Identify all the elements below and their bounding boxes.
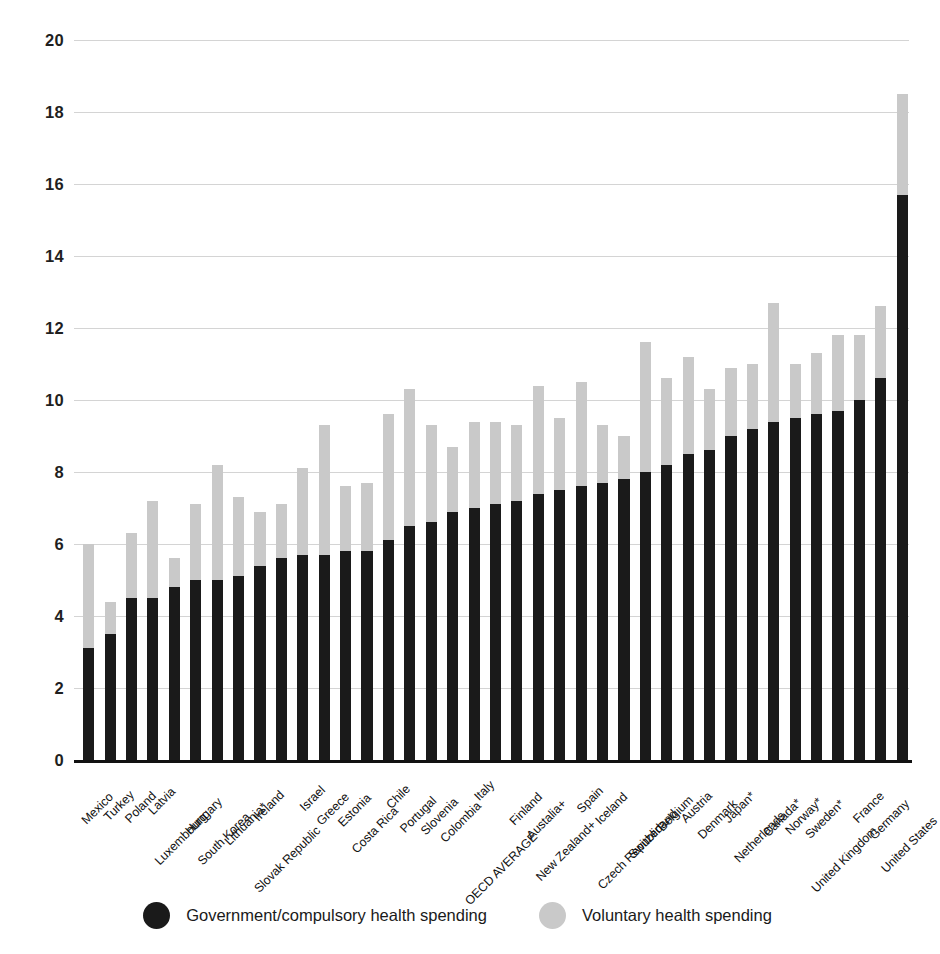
- bar-segment-voluntary: [747, 364, 758, 429]
- y-tick-label-8: 8: [55, 463, 64, 482]
- bar-new-zealand: [554, 418, 565, 760]
- legend-label-voluntary: Voluntary health spending: [582, 906, 772, 925]
- bar-czech-republic: [618, 436, 629, 760]
- bar-segment-voluntary: [469, 422, 480, 508]
- bar-segment-government: [576, 486, 587, 760]
- bar-hungary: [190, 504, 201, 760]
- y-tick-label-14: 14: [45, 247, 64, 266]
- bar-italy: [469, 422, 480, 760]
- y-tick-label-18: 18: [45, 103, 64, 122]
- bar-segment-government: [469, 508, 480, 760]
- bar-segment-government: [212, 580, 223, 760]
- bar-south-korea: [212, 465, 223, 760]
- y-tick-label-6: 6: [55, 535, 64, 554]
- bar-segment-government: [725, 436, 736, 760]
- bar-segment-voluntary: [597, 425, 608, 483]
- bar-segment-voluntary: [618, 436, 629, 479]
- bar-segment-government: [597, 483, 608, 760]
- bar-segment-voluntary: [854, 335, 865, 400]
- bar-segment-voluntary: [875, 306, 886, 378]
- bar-austalia: [533, 386, 544, 760]
- bar-segment-government: [768, 422, 779, 760]
- bar-segment-government: [254, 566, 265, 760]
- bar-belgium: [661, 378, 672, 760]
- bar-turkey: [105, 602, 116, 760]
- bar-israel: [297, 468, 308, 760]
- bar-segment-government: [105, 634, 116, 760]
- bar-segment-government: [897, 195, 908, 760]
- bar-segment-voluntary: [768, 303, 779, 422]
- bar-segment-government: [83, 648, 94, 760]
- x-axis-tick-labels: MexicoTurkeyPolandLatviaLuxembourgHungar…: [74, 763, 912, 873]
- bar-united-kingdom: [832, 335, 843, 760]
- bar-france: [854, 335, 865, 760]
- bar-segment-government: [661, 465, 672, 760]
- bar-segment-government: [854, 400, 865, 760]
- bar-segment-voluntary: [276, 504, 287, 558]
- bar-lithuania: [233, 497, 244, 760]
- bar-segment-government: [790, 418, 801, 760]
- y-tick-label-2: 2: [55, 679, 64, 698]
- bar-switzerland: [640, 342, 651, 760]
- bar-segment-voluntary: [169, 558, 180, 587]
- bar-segment-voluntary: [661, 378, 672, 464]
- bar-oecd-average: [490, 422, 501, 760]
- bar-slovak-republic: [276, 504, 287, 760]
- bar-segment-government: [319, 555, 330, 760]
- bar-segment-government: [340, 551, 351, 760]
- bar-segment-voluntary: [683, 357, 694, 454]
- bar-segment-government: [126, 598, 137, 760]
- bar-luxembourg: [169, 558, 180, 760]
- bar-segment-voluntary: [126, 533, 137, 598]
- x-tick-label-slovak-republic: Slovak Republic: [251, 824, 322, 895]
- bar-segment-government: [361, 551, 372, 760]
- bar-united-states: [897, 94, 908, 760]
- bar-japan: [725, 368, 736, 760]
- bar-segment-government: [511, 501, 522, 760]
- legend-item-government[interactable]: Government/compulsory health spending: [143, 902, 487, 929]
- bar-poland: [126, 533, 137, 760]
- bar-segment-government: [383, 540, 394, 760]
- bar-segment-voluntary: [511, 425, 522, 501]
- bar-segment-voluntary: [383, 414, 394, 540]
- bar-segment-voluntary: [576, 382, 587, 486]
- legend-item-voluntary[interactable]: Voluntary health spending: [539, 902, 772, 929]
- bar-segment-government: [404, 526, 415, 760]
- y-tick-label-0: 0: [55, 751, 64, 770]
- bar-segment-government: [169, 587, 180, 760]
- bar-mexico: [83, 544, 94, 760]
- bar-finland: [511, 425, 522, 760]
- bar-segment-voluntary: [725, 368, 736, 436]
- bar-slovenia: [426, 425, 437, 760]
- x-tick-label-hungary: Hungary: [183, 795, 225, 837]
- bar-segment-voluntary: [361, 483, 372, 551]
- y-tick-label-20: 20: [45, 31, 64, 50]
- bar-segment-government: [640, 472, 651, 760]
- legend-label-government: Government/compulsory health spending: [186, 906, 487, 925]
- bar-segment-voluntary: [319, 425, 330, 555]
- bar-segment-government: [447, 512, 458, 760]
- bar-segment-government: [147, 598, 158, 760]
- bar-segment-government: [533, 494, 544, 760]
- bar-segment-voluntary: [83, 544, 94, 648]
- bar-netherlands: [747, 364, 758, 760]
- bar-segment-government: [832, 411, 843, 760]
- bar-segment-voluntary: [704, 389, 715, 450]
- bar-segment-voluntary: [297, 468, 308, 554]
- bar-iceland: [597, 425, 608, 760]
- bar-segment-voluntary: [811, 353, 822, 414]
- bar-segment-voluntary: [490, 422, 501, 505]
- bar-segment-voluntary: [832, 335, 843, 411]
- bar-colombia: [447, 447, 458, 760]
- bar-series-group: [74, 40, 909, 760]
- bar-segment-voluntary: [254, 512, 265, 566]
- bar-segment-government: [704, 450, 715, 760]
- bar-segment-voluntary: [233, 497, 244, 576]
- bar-ireland: [254, 512, 265, 760]
- bar-canada: [768, 303, 779, 760]
- bar-austria: [683, 357, 694, 760]
- bar-segment-voluntary: [897, 94, 908, 195]
- bar-segment-voluntary: [533, 386, 544, 494]
- bar-segment-voluntary: [426, 425, 437, 522]
- bar-norway: [790, 364, 801, 760]
